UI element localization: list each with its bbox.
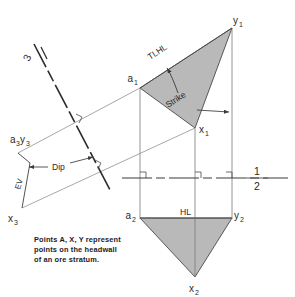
label-a2: a 2: [125, 210, 136, 223]
label-a2-base: a: [125, 210, 131, 221]
tlhl-label: TLHL: [146, 42, 169, 62]
label-a1-sub: 1: [134, 79, 138, 86]
right-angle-marker-y: [226, 172, 232, 178]
label-y1-sub: 1: [239, 21, 243, 28]
label-x1-sub: 1: [205, 130, 209, 137]
label-y1: y 1: [233, 15, 243, 28]
caption-line-1: Points A, X, Y represent: [34, 235, 184, 245]
caption-line-3: of an ore stratum.: [34, 255, 184, 265]
label-y2: y 2: [234, 210, 244, 223]
label-y3-sub: 3: [26, 140, 30, 147]
fold-3-tick: [41, 47, 47, 59]
label-x2: x 2: [189, 283, 199, 296]
label-a1: a 1: [127, 73, 138, 86]
label-y3-base: y: [20, 134, 25, 145]
label-a1-base: a: [127, 73, 133, 84]
figure-caption: Points A, X, Y represent points on the h…: [34, 235, 184, 266]
label-y2-base: y: [234, 210, 239, 221]
ev-label: EV: [13, 177, 25, 190]
dip-arrow-right: [70, 157, 93, 163]
label-a3y3: a 3 y 3: [10, 134, 30, 147]
top-view-triangle: [140, 28, 232, 128]
label-x2-base: x: [189, 283, 194, 294]
caption-line-2: points on the headwall: [34, 245, 184, 255]
right-angle-marker-a: [140, 172, 146, 178]
fold-label-numerator: 1: [254, 165, 260, 177]
label-y1-base: y: [233, 15, 238, 26]
label-a2-sub: 2: [132, 216, 136, 223]
diagram-page: a 1 x 1 y 1 a 2 x 2 y 2 x: [0, 0, 295, 297]
right-angle-marker-x: [195, 172, 201, 178]
fold-line-3-label: 3: [20, 52, 33, 63]
label-x2-sub: 2: [195, 289, 199, 296]
label-x3-base: x: [8, 213, 13, 224]
hl-label: HL: [180, 207, 191, 217]
label-x1-base: x: [199, 124, 204, 135]
label-y2-sub: 2: [240, 216, 244, 223]
projection-line-lower: [22, 128, 195, 208]
label-x1: x 1: [199, 124, 209, 137]
dip-label: Dip: [52, 162, 65, 172]
fold-label-denominator: 2: [254, 180, 260, 192]
projection-line-upper: [18, 88, 140, 153]
label-x3-sub: 3: [14, 219, 18, 226]
label-x3: x 3: [8, 213, 18, 226]
strike-leader-arrow: [197, 110, 229, 112]
